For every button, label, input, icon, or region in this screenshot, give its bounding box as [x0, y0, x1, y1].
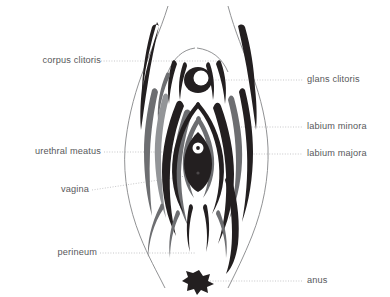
perineum-left-stroke: [187, 204, 193, 252]
anus-group: [182, 270, 214, 295]
label-vagina-text: vagina: [61, 184, 89, 194]
perineum-strokes: [148, 204, 227, 258]
anus-star: [182, 270, 214, 295]
label-labium-minora: labium minora: [307, 122, 367, 131]
label-anus-text: anus: [307, 275, 328, 285]
glans-clitoris-group: [184, 67, 212, 93]
glans-clitoris-highlight: [194, 71, 209, 86]
hood-right-outer: [216, 60, 226, 104]
label-corpus-clitoris: corpus clitoris: [0, 56, 101, 65]
perineum-right-stroke: [203, 204, 209, 252]
label-labium-majora: labium majora: [307, 149, 367, 158]
label-vagina: vagina: [0, 185, 89, 194]
label-perineum-text: perineum: [57, 247, 97, 257]
diagram-page: corpus clitoris urethral meatus vagina p…: [0, 0, 390, 297]
leader-vagina: [92, 176, 186, 190]
label-glans-clitoris: glans clitoris: [307, 75, 360, 84]
label-corpus-clitoris-text: corpus clitoris: [43, 55, 101, 65]
perineum-far-left-stroke: [148, 204, 164, 258]
label-glans-clitoris-text: glans clitoris: [307, 74, 360, 84]
label-urethral-meatus: urethral meatus: [0, 147, 101, 156]
label-anus: anus: [307, 276, 328, 285]
label-labium-minora-text: labium minora: [307, 121, 367, 131]
right-labia-majora-folds: [213, 88, 253, 274]
hood-left-outer: [168, 60, 177, 104]
label-urethral-meatus-text: urethral meatus: [35, 146, 101, 156]
label-labium-majora-text: labium majora: [307, 148, 367, 158]
label-perineum: perineum: [0, 248, 97, 257]
urethral-meatus-center-dot: [196, 146, 200, 150]
vaginal-opening-dot: [196, 171, 199, 174]
